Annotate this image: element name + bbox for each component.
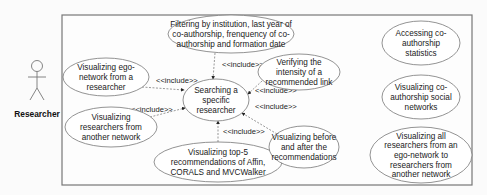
use-case-all: Visualizing allresearchers from anego-ne… <box>370 127 472 183</box>
use-case-label-line: another network <box>82 133 142 142</box>
use-case-label-line: researchers from an <box>384 141 458 150</box>
use-case-label-line: Visualizing top-5 <box>188 148 248 157</box>
use-case-label-line: Visualizing <box>92 113 131 122</box>
use-case-filter: Filtering by institution, last year ofco… <box>168 15 294 53</box>
use-case-label-line: another network <box>392 170 452 179</box>
use-case-top5: Visualizing top-5recommendations of Affi… <box>154 142 282 182</box>
include-label-filter: <<include>> <box>222 60 264 69</box>
use-case-label-line: networks <box>405 103 438 112</box>
use-case-label-line: CORALS and MVCWalker <box>170 168 266 177</box>
use-case-label-line: Visualizing co- <box>395 83 448 92</box>
include-label-top5: <<include>> <box>223 127 265 136</box>
use-case-label-line: recommendations <box>271 153 336 162</box>
use-case-label-line: researcher <box>86 83 125 92</box>
use-case-diagram: Researcher <<include>><<include>><<inclu… <box>0 0 487 195</box>
actor-researcher: Researcher <box>14 61 60 120</box>
use-case-label-line: Visualizing before <box>272 133 337 142</box>
use-case-label-line: ego-network to <box>394 151 449 160</box>
use-case-label-line: researcher <box>196 106 235 115</box>
use-case-ego: Visualizing ego-network from aresearcher <box>63 58 149 96</box>
include-label-ego: <<include>> <box>156 76 198 85</box>
use-case-label-line: Verifying the <box>276 58 322 67</box>
use-case-label-line: intensity of a <box>276 68 322 77</box>
use-case-label-line: recommendations of Affin, <box>171 158 266 167</box>
use-case-label-line: authorship and formation date <box>177 40 286 49</box>
use-case-label-line: Accessing co- <box>396 29 447 38</box>
stick-figure-icon <box>28 61 46 101</box>
use-case-other: Visualizingresearchers fromanother netwo… <box>65 107 157 147</box>
use-case-label-line: statistics <box>405 49 436 58</box>
use-case-social: Visualizing co-authorship socialnetworks <box>382 75 460 119</box>
include-label-before: <<include>> <box>255 102 297 111</box>
use-case-label-line: recommended link <box>266 78 334 87</box>
use-case-label-line: Searching a <box>194 86 238 95</box>
use-case-search: Searching aspecificresearcher <box>183 79 249 121</box>
use-case-label-line: Filtering by institution, last year of <box>170 20 292 29</box>
use-case-label-line: authorship social <box>390 93 452 102</box>
use-case-label-line: authorship <box>402 39 441 48</box>
use-case-label-line: researchers from <box>80 123 142 132</box>
use-case-label-line: network from a <box>79 73 134 82</box>
use-case-before: Visualizing beforeand after therecommend… <box>269 126 339 168</box>
actor-label: Researcher <box>14 109 60 119</box>
use-case-stats: Accessing co-authorshipstatistics <box>382 21 460 65</box>
use-case-label-line: Visualizing ego- <box>77 63 135 72</box>
use-case-verify: Verifying theintensity of arecommended l… <box>258 54 340 90</box>
use-case-label-line: researchers from <box>390 161 452 170</box>
use-case-label-line: specific <box>202 96 229 105</box>
use-case-label-line: Visualizing all <box>396 132 446 141</box>
use-case-label-line: and after the <box>281 143 327 152</box>
use-case-label-line: co-authorship, frenquency of co- <box>172 30 290 39</box>
